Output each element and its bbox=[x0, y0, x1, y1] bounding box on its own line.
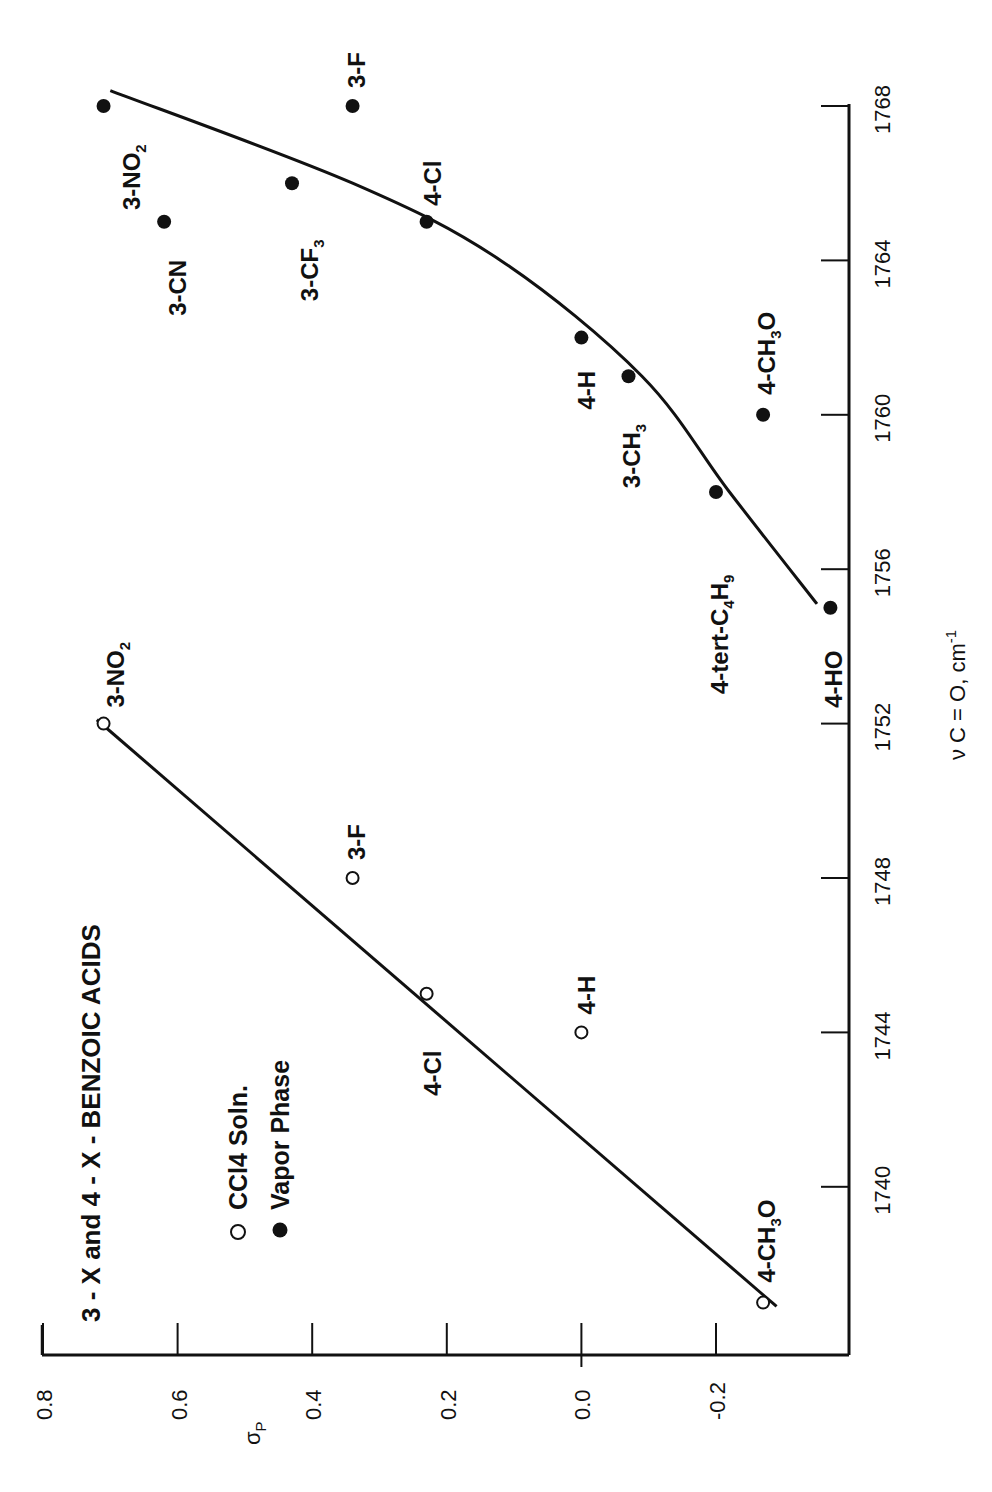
vapor-point-label: 3-CF3 bbox=[296, 240, 327, 302]
x-tick-label: 1748 bbox=[870, 857, 895, 906]
vapor-point-filled-circle bbox=[823, 601, 837, 615]
vapor-point-filled-circle bbox=[97, 99, 111, 113]
vapor-point-label: 4-tert-C4H9 bbox=[706, 575, 737, 694]
y-tick-label: 0.0 bbox=[570, 1389, 595, 1420]
x-axis-title: ν C = O, cm-1 bbox=[942, 630, 970, 760]
ccl4-point-label: 4-H bbox=[573, 976, 600, 1015]
ccl4-point-open-circle bbox=[757, 1297, 769, 1309]
data-points bbox=[97, 99, 838, 1309]
vapor-point-label: 3-NO2 bbox=[118, 144, 149, 210]
ccl4-point-label: 4-Cl bbox=[419, 1050, 446, 1095]
y-axis-title: σP bbox=[240, 1421, 269, 1445]
vapor-point-filled-circle bbox=[157, 215, 171, 229]
benzoic-acid-chart: 174017441748175217561760176417680.80.60.… bbox=[0, 0, 992, 1492]
ccl4-fit-line bbox=[97, 720, 777, 1307]
x-tick-label: 1752 bbox=[870, 703, 895, 752]
x-tick-label: 1740 bbox=[870, 1166, 895, 1215]
vapor-point-filled-circle bbox=[346, 99, 360, 113]
vapor-point-label: 4-H bbox=[573, 371, 600, 410]
ccl4-point-label: 4-CH3O bbox=[753, 1200, 784, 1283]
legend-label-ccl4: CCl4 Soln. bbox=[224, 1085, 252, 1210]
y-tick-label: 0.8 bbox=[32, 1389, 57, 1420]
point-labels: 3-NO23-F4-Cl4-H4-CH3O3-NO23-CN3-CF33-F4-… bbox=[102, 52, 848, 1283]
legend-open-circle-icon bbox=[231, 1225, 245, 1239]
legend-filled-circle-icon bbox=[273, 1223, 288, 1238]
x-tick-label: 1760 bbox=[870, 394, 895, 443]
ccl4-point-open-circle bbox=[347, 872, 359, 884]
x-tick-label: 1764 bbox=[870, 239, 895, 288]
fit-curves bbox=[97, 91, 817, 1307]
legend: CCl4 Soln.Vapor Phase bbox=[224, 1060, 294, 1239]
x-tick-label: 1768 bbox=[870, 85, 895, 134]
y-tick-label: 0.2 bbox=[436, 1389, 461, 1420]
vapor-point-label: 4-CH3O bbox=[753, 312, 784, 395]
vapor-point-filled-circle bbox=[285, 176, 299, 190]
vapor-fit-curve bbox=[110, 91, 817, 604]
ccl4-point-label: 3-F bbox=[343, 824, 370, 860]
vapor-point-filled-circle bbox=[622, 369, 636, 383]
ccl4-point-open-circle bbox=[98, 718, 110, 730]
ccl4-point-open-circle bbox=[575, 1026, 587, 1038]
ccl4-point-open-circle bbox=[421, 988, 433, 1000]
vapor-point-label: 3-CH3 bbox=[619, 424, 650, 488]
chart-title: 3 - X and 4 - X - BENZOIC ACIDS bbox=[76, 924, 106, 1322]
vapor-point-label: 3-F bbox=[343, 52, 370, 88]
x-tick-label: 1744 bbox=[870, 1011, 895, 1060]
y-tick-label: 0.4 bbox=[301, 1389, 326, 1420]
vapor-point-label: 4-HO bbox=[820, 650, 847, 707]
x-tick-label: 1756 bbox=[870, 548, 895, 597]
chart-title-text: 3 - X and 4 - X - BENZOIC ACIDS bbox=[76, 924, 106, 1322]
ccl4-point-label: 3-NO2 bbox=[102, 642, 133, 708]
y-tick-label: 0.6 bbox=[167, 1389, 192, 1420]
vapor-point-filled-circle bbox=[756, 408, 770, 422]
y-tick-label: -0.2 bbox=[705, 1382, 730, 1420]
vapor-point-filled-circle bbox=[420, 215, 434, 229]
legend-label-vapor: Vapor Phase bbox=[266, 1060, 294, 1210]
vapor-point-label: 4-Cl bbox=[419, 160, 446, 205]
vapor-point-filled-circle bbox=[709, 485, 723, 499]
vapor-point-filled-circle bbox=[574, 331, 588, 345]
vapor-point-label: 3-CN bbox=[164, 260, 191, 316]
